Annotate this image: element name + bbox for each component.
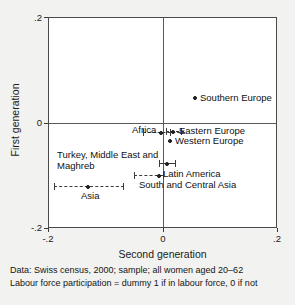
x-tick-mark-2 [277,228,278,232]
errorbar-cap-asia-high [123,183,124,190]
zero-line-horizontal [49,123,276,124]
data-label-asia: Asia [81,191,99,202]
x-tick-mark-0 [48,228,49,232]
figure-caption: Data: Swiss census, 2000; sample; all wo… [10,264,292,290]
y-tick-label-1: 0 [20,118,42,128]
data-label-africa: Africa [132,125,156,136]
caption-line-2: Labour force participation = dummy 1 if … [10,277,292,290]
x-tick-label-0: -.2 [33,234,63,244]
x-tick-label-2: .2 [263,234,291,244]
data-label-western-europe: Western Europe [175,136,243,147]
data-point-asia[interactable] [86,185,90,189]
caption-line-1: Data: Swiss census, 2000; sample; all wo… [10,264,292,277]
errorbar-cap-eastern-europe-low [166,128,167,135]
data-label-south-and-central-asia: South and Central Asia [139,180,236,191]
errorbar-cap-asia-low [54,183,55,190]
x-tick-label-1: 0 [148,234,178,244]
scatter-plot-figure: First generation .2 0 -.2 -.2 0 .2 Secon… [0,0,295,305]
data-point-southern-europe[interactable] [193,96,197,100]
errorbar-cap-latin-america-low [134,172,135,179]
y-tick-label-2: -.2 [16,223,42,233]
data-label-southern-europe: Southern Europe [200,93,272,104]
x-axis-title: Second generation [48,248,277,260]
data-point-latin-america[interactable] [157,174,161,178]
x-tick-mark-1 [163,228,164,232]
errorbar-cap-turkey-high [175,160,176,167]
plot-area: Southern Europe Africa Eastern Europe We… [48,17,277,228]
data-label-turkey-middle-east-maghreb: Turkey, Middle East and Maghreb [57,150,175,172]
data-point-western-europe[interactable] [168,139,172,143]
y-tick-label-0: .2 [20,13,42,23]
